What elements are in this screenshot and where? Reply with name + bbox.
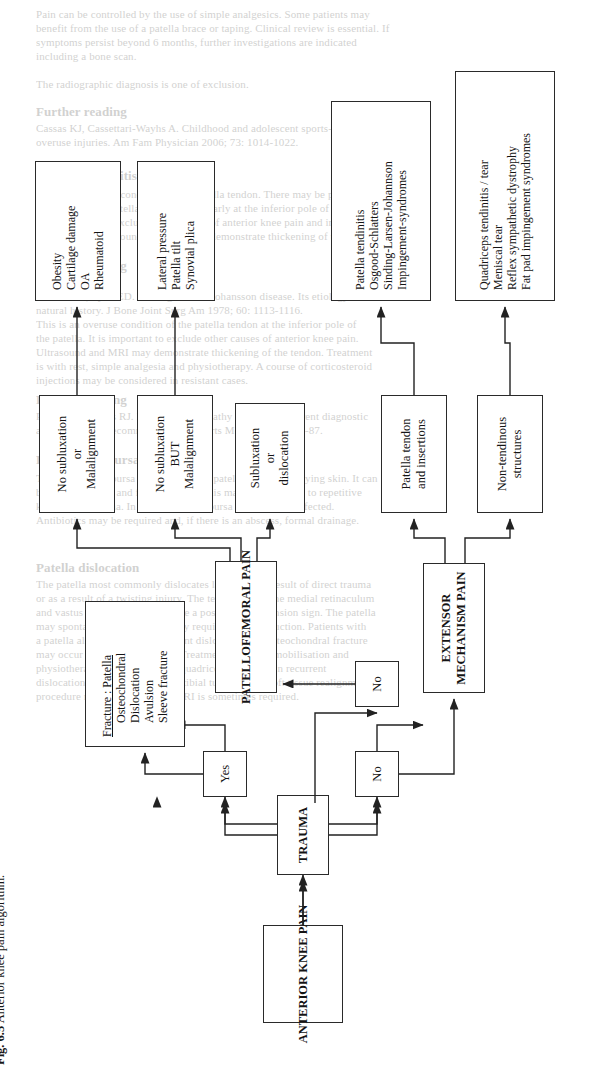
figure-container: ANTERIOR KNEE PAIN TRAUMA Yes No No Frac… <box>0 0 609 1075</box>
figure-caption-text: Anterior knee pain algorithm. <box>0 875 7 1024</box>
anterior-knee-pain-algorithm: ANTERIOR KNEE PAIN TRAUMA Yes No No Frac… <box>25 33 585 1043</box>
figure-caption: Fig. 6.5 Anterior knee pain algorithm. <box>0 875 8 1065</box>
flow-connectors-overlay <box>25 33 585 1043</box>
figure-caption-label: Fig. 6.5 <box>0 1026 7 1065</box>
